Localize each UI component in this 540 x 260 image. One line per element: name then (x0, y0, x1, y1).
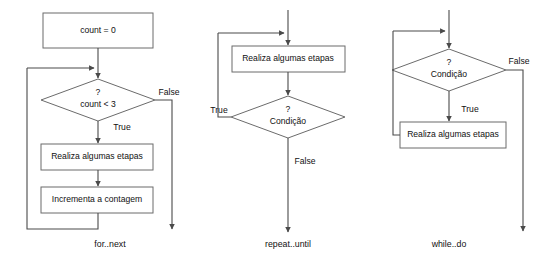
edge-label-for-next-true: True (113, 122, 131, 132)
flowchart-diagram: count = 0 ? count < 3 False True Realiza… (0, 0, 540, 260)
node-repeat-body-label: Realiza algumas etapas (242, 53, 334, 63)
flowchart-canvas: count = 0 ? count < 3 False True Realiza… (0, 0, 540, 260)
caption-for-next: for..next (94, 239, 126, 249)
edge-while-loopback (393, 31, 400, 135)
edge-label-while-false: False (508, 56, 529, 66)
edge-label-for-next-false: False (158, 87, 179, 97)
node-for-next-body-label: Realiza algumas etapas (51, 151, 143, 161)
node-repeat-cond-marker: ? (286, 104, 291, 114)
node-for-next-cond-label: count < 3 (80, 99, 116, 109)
edge-while-false (506, 70, 523, 231)
edge-label-repeat-false: False (294, 156, 315, 166)
node-repeat-cond-label: Condição (270, 116, 307, 126)
node-while-cond-marker: ? (447, 57, 452, 67)
node-while-body-label: Realiza algumas etapas (407, 129, 499, 139)
edge-label-repeat-true: True (210, 105, 228, 115)
node-for-next-init-label: count = 0 (80, 25, 116, 35)
flowchart-for-next: count = 0 ? count < 3 False True Realiza… (27, 13, 180, 249)
caption-repeat-until: repeat..until (265, 239, 311, 249)
edge-label-while-true: True (461, 104, 479, 114)
flowchart-while-do: ? Condição False True Realiza algumas et… (392, 10, 530, 249)
node-for-next-cond-marker: ? (96, 87, 101, 97)
node-for-next-incr-label: Incrementa a contagem (52, 194, 142, 204)
node-while-cond-label: Condição (431, 69, 468, 79)
flowchart-repeat-until: Realiza algumas etapas ? Condição True F… (210, 10, 345, 249)
edge-for-next-false (155, 100, 172, 229)
caption-while-do: while..do (431, 239, 467, 249)
